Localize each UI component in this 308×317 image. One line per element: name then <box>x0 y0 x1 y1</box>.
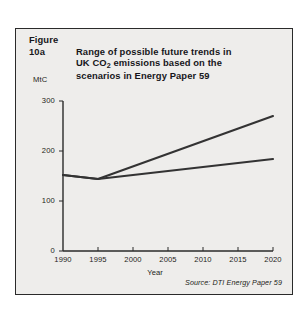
data-series-group <box>63 116 273 179</box>
data-series-line <box>63 116 273 179</box>
x-axis-tick-label: 2005 <box>152 255 184 264</box>
source-note: Source: DTI Energy Paper 59 <box>185 278 282 287</box>
x-axis-tick-label: 2010 <box>187 255 219 264</box>
y-axis-tick-label: 100 <box>29 196 55 205</box>
x-axis-tick-label: 1995 <box>82 255 114 264</box>
y-axis-tick-label: 200 <box>29 146 55 155</box>
source-text: DTI Energy Paper 59 <box>213 278 282 287</box>
x-axis-title: Year <box>16 268 294 277</box>
x-axis-tick-label: 2020 <box>257 255 289 264</box>
x-axis-tick-label: 2000 <box>117 255 149 264</box>
source-prefix: Source: <box>185 278 213 287</box>
x-axis-tick-label: 1990 <box>47 255 79 264</box>
y-axis-tick-label: 0 <box>29 246 55 255</box>
data-series-line <box>63 159 273 179</box>
figure-panel: Figure 10aRange of possible future trend… <box>15 28 293 295</box>
x-axis-tick-label: 2015 <box>222 255 254 264</box>
plot-area: 0100200300 1990199520002005201020152020 <box>16 29 294 296</box>
y-axis-tick-label: 300 <box>29 96 55 105</box>
